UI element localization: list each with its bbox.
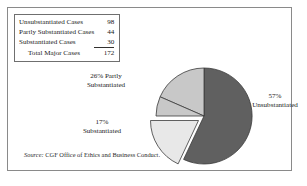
table-row: Substantiated Cases 30 [19, 37, 114, 47]
source-prefix: Source: [24, 151, 44, 158]
pie-label-substantiated-name: Substantiated [60, 127, 144, 136]
source-note: Source: CGF Office of Ethics and Busines… [24, 151, 160, 158]
row-value-total: 172 [94, 48, 114, 59]
row-value-unsubstantiated: 98 [94, 18, 114, 28]
source-text: CGF Office of Ethics and Business Conduc… [45, 151, 160, 158]
pie-label-unsubstantiated: 57% Unsubstantiated [240, 92, 307, 110]
pie-label-unsubstantiated-name: Unsubstantiated [240, 101, 307, 110]
pie-label-partly-pct: 26% Partly [64, 72, 148, 81]
row-label-substantiated: Substantiated Cases [19, 37, 94, 47]
counts-table: Unsubstantiated Cases 98 Partly Substant… [19, 18, 114, 58]
row-label-unsubstantiated: Unsubstantiated Cases [19, 18, 94, 28]
table-row: Unsubstantiated Cases 98 [19, 18, 114, 28]
figure-container: Unsubstantiated Cases 98 Partly Substant… [0, 0, 307, 186]
table-row: Partly Substantiated Cases 44 [19, 28, 114, 38]
table-row-total: Total Major Cases 172 [19, 48, 114, 59]
row-value-partly-substantiated: 44 [94, 28, 114, 38]
case-counts-table: Unsubstantiated Cases 98 Partly Substant… [14, 14, 120, 62]
row-value-substantiated: 30 [94, 37, 114, 47]
pie-label-partly-substantiated: 26% Partly Substantiated [64, 72, 148, 90]
pie-chart [136, 56, 266, 176]
pie-label-substantiated: 17% Substantiated [60, 118, 144, 136]
pie-label-partly-name: Substantiated [64, 81, 148, 90]
pie-label-unsubstantiated-pct: 57% [240, 92, 307, 101]
figure-frame: Unsubstantiated Cases 98 Partly Substant… [7, 7, 292, 171]
row-label-partly-substantiated: Partly Substantiated Cases [19, 28, 94, 38]
row-label-total: Total Major Cases [19, 48, 94, 59]
pie-label-substantiated-pct: 17% [60, 118, 144, 127]
